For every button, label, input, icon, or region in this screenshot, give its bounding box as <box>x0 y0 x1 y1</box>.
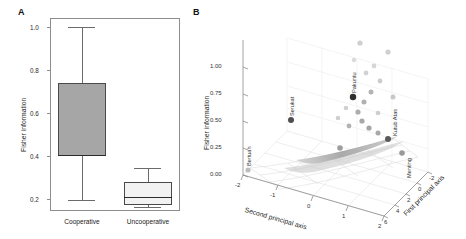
y-tick-0.8: 0.8 <box>30 67 39 74</box>
z-tick-0.50: 0.50 <box>210 117 222 123</box>
point-label-pakuntu: Pakuntu <box>351 72 357 93</box>
z-tick-0.00: 0.00 <box>210 171 222 177</box>
point-label-menting: Menting <box>406 158 412 178</box>
point-label-bertuah: Bertuah <box>246 146 252 166</box>
panel-a: A Fisher information 0.2 0.4 0.6 0.8 1.0 <box>0 0 215 239</box>
scatter-points-light <box>336 40 396 120</box>
box2-upper-whisker <box>148 168 149 182</box>
panel-b-z-axis-title: Fisher information <box>203 96 210 150</box>
y-tick-2: 2 <box>407 197 410 203</box>
box2-iqr-rect <box>124 182 172 205</box>
z-tick-1.00: 1.00 <box>210 63 222 69</box>
box2-upper-cap <box>134 168 161 169</box>
box1-upper-whisker <box>82 27 83 83</box>
x-category-uncooperative: Uncooperative <box>115 218 181 225</box>
x-tick--2: -2 <box>235 182 240 188</box>
x-category-cooperative: Cooperative <box>52 218 112 225</box>
x-tick--1: -1 <box>270 192 275 198</box>
point-label-serukat: Serukat <box>289 97 295 116</box>
box2-lower-cap <box>134 207 161 208</box>
box2-median-line <box>124 197 172 198</box>
x-tick-2: 2 <box>378 223 381 229</box>
y-tick-6: 6 <box>384 219 387 225</box>
z-tick-0.25: 0.25 <box>210 144 222 150</box>
panel-a-y-axis-title: Fisher information <box>20 98 27 152</box>
x-tick-0: 0 <box>307 203 310 209</box>
y-tick-0.6: 0.6 <box>30 110 39 117</box>
y-tick-0.4: 0.4 <box>30 153 39 160</box>
scatter3d-canvas <box>188 0 466 239</box>
y-tick-0.2: 0.2 <box>30 196 39 203</box>
panel-b: B <box>188 0 466 239</box>
box1-lower-whisker <box>82 156 83 201</box>
figure-root: A Fisher information 0.2 0.4 0.6 0.8 1.0 <box>0 0 466 239</box>
box1-lower-cap <box>68 200 95 201</box>
panel-a-letter: A <box>18 7 25 17</box>
x-tick-1: 1 <box>342 213 345 219</box>
y-tick-0: 0 <box>418 186 421 192</box>
box1-upper-cap <box>68 27 95 28</box>
y-tick-4: 4 <box>396 208 399 214</box>
box1-iqr-rect <box>58 83 106 156</box>
z-tick-0.75: 0.75 <box>210 90 222 96</box>
point-label-kutub-atas: Kutub Atas <box>392 109 398 136</box>
y-tick-1.0: 1.0 <box>30 24 39 31</box>
